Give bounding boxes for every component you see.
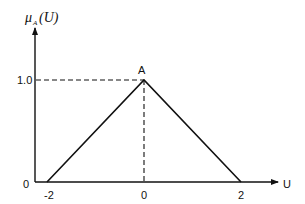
membership-diagram: μ A (U) 1.0 0 -2 0 2 A U xyxy=(0,0,305,204)
ylabel-sub: A xyxy=(32,19,38,27)
y-tick-1: 1.0 xyxy=(17,74,32,86)
x-tick-0: 0 xyxy=(141,189,147,201)
ylabel-arg: (U) xyxy=(39,10,59,26)
ylabel-mu: μ xyxy=(24,10,32,25)
peak-label: A xyxy=(138,64,146,76)
x-axis-label: U xyxy=(283,178,291,190)
y-axis-label: μ A (U) xyxy=(24,10,59,27)
x-tick-neg2: -2 xyxy=(44,189,54,201)
origin-label: 0 xyxy=(23,178,29,190)
x-tick-2: 2 xyxy=(238,189,244,201)
